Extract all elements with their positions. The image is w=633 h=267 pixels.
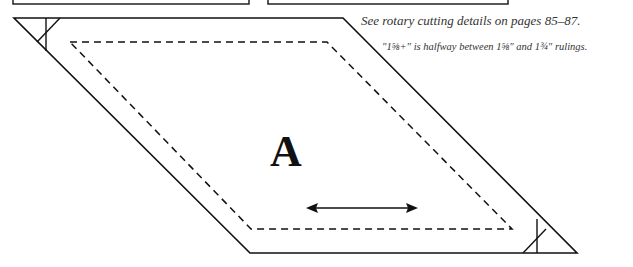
top-box-left (13, 0, 249, 4)
grain-line-arrow-icon (306, 203, 418, 213)
top-box-right (268, 0, 508, 4)
pattern-piece-label: A (270, 130, 302, 174)
halfway-ruling-note: "1⅝+" is halfway between 1⅝" and 1¾" rul… (382, 41, 587, 52)
corner-trim-marker-bottom-right (523, 219, 546, 253)
corner-trim-marker-top-left (37, 18, 60, 51)
rotary-cutting-note: See rotary cutting details on pages 85–8… (361, 13, 580, 29)
